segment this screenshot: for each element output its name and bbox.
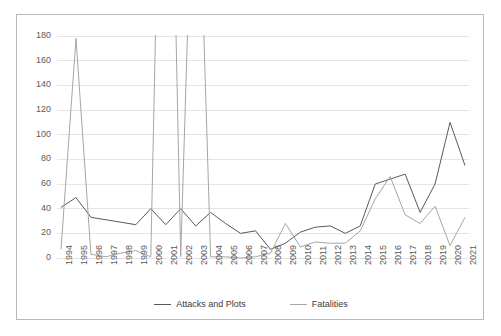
x-axis-tick-label: 1994 (65, 245, 74, 265)
legend-label: Fatalities (312, 299, 348, 309)
chart-card: 180160140120100806040200 199419951996199… (16, 14, 484, 320)
x-axis-tick-label: 2016 (394, 245, 403, 265)
legend-line-swatch (154, 304, 171, 305)
x-axis-tick-label: 1999 (140, 245, 149, 265)
x-axis-tick-label: 2008 (274, 245, 283, 265)
legend-item[interactable]: Fatalities (290, 299, 348, 309)
x-axis-tick-label: 2003 (200, 245, 209, 265)
x-axis-tick-label: 2001 (170, 245, 179, 265)
x-axis-tick-label: 2017 (409, 245, 418, 265)
x-axis-tick-label: 1995 (80, 245, 89, 265)
legend-line-swatch (290, 304, 307, 305)
x-axis-tick-label: 2019 (439, 245, 448, 265)
plot-area: 180160140120100806040200 199419951996199… (17, 15, 485, 321)
x-axis-tick-label: 2000 (155, 245, 164, 265)
x-axis-tick-label: 2010 (304, 245, 313, 265)
x-axis-tick-label: 2011 (319, 246, 328, 265)
x-axis-tick-label: 2009 (289, 245, 298, 265)
x-axis-tick-label: 2012 (334, 245, 343, 265)
x-axis-tick-label: 2014 (364, 245, 373, 265)
legend-item[interactable]: Attacks and Plots (154, 299, 246, 309)
x-axis-tick-label: 2002 (185, 245, 194, 265)
x-axis: 1994199519961997199819992000200120022003… (17, 15, 485, 321)
x-axis-tick-label: 2007 (260, 245, 269, 265)
x-axis-tick-label: 2005 (230, 245, 239, 265)
x-axis-tick-label: 2006 (245, 245, 254, 265)
x-axis-tick-label: 2020 (454, 245, 463, 265)
x-axis-tick-label: 1997 (110, 245, 119, 265)
x-axis-tick-label: 2013 (349, 245, 358, 265)
x-axis-tick-label: 2018 (424, 245, 433, 265)
x-axis-tick-label: 1996 (95, 245, 104, 265)
x-axis-tick-label: 2015 (379, 245, 388, 265)
x-axis-tick-label: 2021 (469, 245, 478, 265)
chart-legend: Attacks and PlotsFatalities (17, 299, 485, 309)
legend-label: Attacks and Plots (176, 299, 246, 309)
x-axis-tick-label: 2004 (215, 245, 224, 265)
x-axis-tick-label: 1998 (125, 245, 134, 265)
